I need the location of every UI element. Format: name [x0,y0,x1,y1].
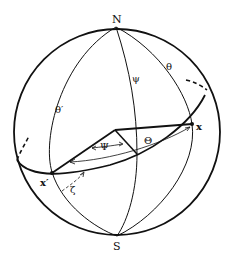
label-x: x [196,121,203,132]
point-x [190,122,194,126]
label-psi-meridian: ψ [132,73,140,84]
label-north: N [112,13,122,26]
meridian-psi [116,27,137,236]
sphere-diagram: N S x x′ θ θ′ ψ Ψ Θ ζ [0,0,228,262]
great-circle-back-left [17,136,29,160]
label-big-theta: Θ [144,135,152,146]
label-theta-prime: θ′ [55,104,64,115]
theta-arrowhead-right [185,127,190,131]
label-south: S [113,240,121,253]
meridian-theta [116,27,193,236]
label-theta: θ [166,61,172,72]
label-big-psi: Ψ [100,141,109,152]
great-circle-back-right [186,80,207,90]
point-x-prime [50,171,54,175]
label-zeta: ζ [70,184,76,195]
label-x-prime: x′ [40,177,49,188]
meridian-theta-prime [49,27,117,236]
